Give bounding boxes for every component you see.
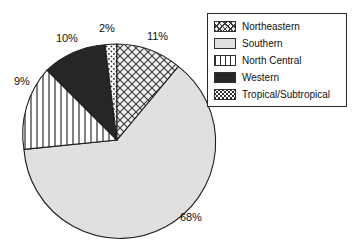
slice-value-label-northeastern: 11% <box>147 31 168 42</box>
slice-value-label-tropical-subtropical: 2% <box>99 23 115 34</box>
legend-label-tropical-subtropical: Tropical/Subtropical <box>242 89 330 100</box>
legend-item-northeastern[interactable]: Northeastern <box>214 18 341 35</box>
slice-value-label-western: 10% <box>56 33 78 44</box>
chart-legend: Northeastern Southern North Central West… <box>207 13 347 107</box>
legend-label-northeastern: Northeastern <box>242 21 300 32</box>
legend-label-western: Western <box>242 72 279 83</box>
pie-chart-figure: 11% 68% 9% 10% 2% Northeastern Southern … <box>0 0 359 247</box>
legend-label-southern: Southern <box>242 38 283 49</box>
legend-swatch-solid-black-icon <box>214 72 236 83</box>
legend-swatch-light-gray-icon <box>214 38 236 49</box>
legend-swatch-crosshatch-icon <box>214 21 236 32</box>
legend-item-tropical-subtropical[interactable]: Tropical/Subtropical <box>214 86 341 103</box>
legend-swatch-dotted-icon <box>214 89 236 100</box>
legend-item-southern[interactable]: Southern <box>214 35 341 52</box>
slice-value-label-north-central: 9% <box>14 76 30 87</box>
legend-item-north-central[interactable]: North Central <box>214 52 341 69</box>
legend-swatch-vertical-lines-icon <box>214 55 236 66</box>
legend-item-western[interactable]: Western <box>214 69 341 86</box>
slice-value-label-southern: 68% <box>180 212 202 223</box>
legend-label-north-central: North Central <box>242 55 301 66</box>
